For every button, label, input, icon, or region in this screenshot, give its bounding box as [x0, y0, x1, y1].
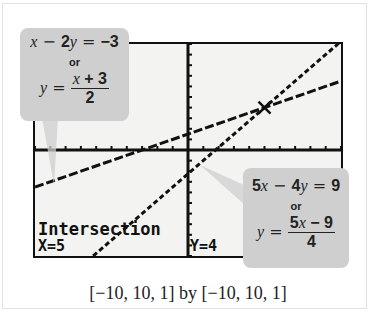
or-label: or [20, 56, 129, 68]
fraction: 5x − 94 [288, 214, 335, 251]
equation-1-standard-form: x − 2y = −3 [20, 32, 129, 51]
equation-2-standard-form: 5x − 4y = 9 [243, 176, 349, 195]
or-label: or [243, 200, 349, 212]
intersection-label: Intersection [38, 219, 161, 239]
equation-2-slope-form: y = 5x − 94 [243, 214, 349, 251]
x-readout: X=5 [38, 237, 65, 255]
callout-equation-2: 5x − 4y = 9 or y = 5x − 94 [243, 168, 349, 268]
y-readout: Y=4 [190, 237, 217, 255]
fraction: x + 32 [71, 70, 109, 107]
window-caption: [−10, 10, 1] by [−10, 10, 1] [0, 283, 376, 304]
equation-1-slope-form: y = x + 32 [20, 70, 129, 107]
callout-equation-1: x − 2y = −3 or y = x + 32 [20, 28, 129, 121]
